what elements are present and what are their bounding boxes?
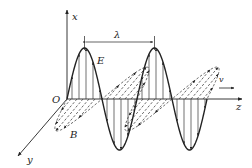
y-axis-label: y bbox=[26, 154, 33, 165]
z-axis-label: z bbox=[235, 101, 242, 112]
x-axis-label: x bbox=[72, 11, 78, 22]
electric-field-label: E bbox=[96, 55, 105, 66]
axes bbox=[18, 10, 242, 156]
velocity-label: v bbox=[219, 75, 224, 84]
em-wave-diagram: x z y O E B λ v bbox=[0, 0, 252, 168]
y-axis bbox=[18, 99, 67, 156]
wavelength-label: λ bbox=[113, 29, 120, 40]
magnetic-field-label: B bbox=[69, 129, 77, 140]
origin-label: O bbox=[52, 94, 60, 105]
